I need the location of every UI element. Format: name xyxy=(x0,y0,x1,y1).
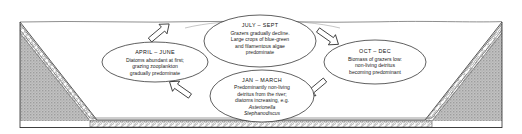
stage-line: Predominantly non-living xyxy=(234,84,290,90)
stage-line: predominate xyxy=(246,49,274,55)
stage-line: Diatoms abundant at first; xyxy=(126,57,184,63)
arrow-july-sept-to-oct-dec xyxy=(314,25,342,49)
stage-title: JAN – MARCH xyxy=(242,77,282,83)
stage-title: APRIL – JUNE xyxy=(135,49,175,55)
stage-line: detritus from the river; xyxy=(237,91,287,97)
stage-line: and filamentous algae xyxy=(235,43,285,49)
stage-bubble-july-sept[interactable]: JULY – SEPT Grazers gradually decline. L… xyxy=(204,15,316,67)
stage-line: becoming predominant xyxy=(349,69,401,75)
seasonal-cycle-figure: APRIL – JUNE Diatoms abundant at first; … xyxy=(0,0,522,134)
stage-line: Grazers gradually decline. xyxy=(230,30,289,36)
stage-title: JULY – SEPT xyxy=(242,22,279,28)
stage-line: Large crops of blue-green xyxy=(231,36,289,42)
stage-line: non-living detritus xyxy=(355,62,395,68)
arrow-april-june-to-july-sept xyxy=(146,19,173,45)
stage-title: OCT – DEC xyxy=(359,48,391,54)
diagram-canvas: APRIL – JUNE Diatoms abundant at first; … xyxy=(0,0,522,134)
stage-line: gradually predominate xyxy=(130,70,181,76)
stage-line: diatoms increasing, e.g. xyxy=(235,97,289,103)
species-name: Stephanodiscus xyxy=(244,110,281,116)
stage-bubble-oct-dec[interactable]: OCT – DEC Biomass of grazers low: non-li… xyxy=(324,40,426,84)
stage-bubble-april-june[interactable]: APRIL – JUNE Diatoms abundant at first; … xyxy=(102,42,208,82)
stage-line: grazing zooplankton xyxy=(132,63,178,69)
stage-bubble-jan-march[interactable]: JAN – MARCH Predominantly non-living det… xyxy=(210,70,314,122)
stage-line: Biomass of grazers low: xyxy=(348,56,402,62)
species-name: Asterionella xyxy=(248,104,276,110)
